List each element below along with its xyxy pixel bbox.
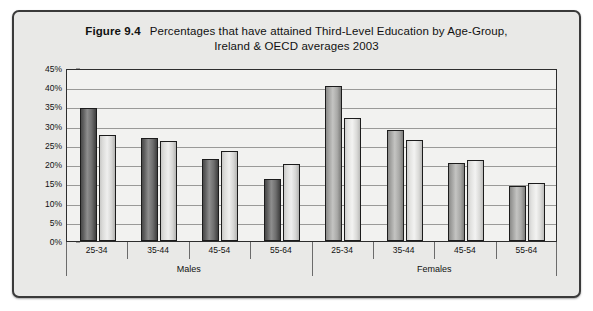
x-tick-label: 55-64: [250, 245, 311, 255]
bar: [344, 118, 361, 241]
bar: [528, 183, 545, 241]
group-label: Females: [312, 264, 558, 274]
bar: [80, 108, 97, 241]
x-tick-label: 25-34: [312, 245, 373, 255]
bar: [325, 86, 342, 241]
bar: [141, 138, 158, 241]
bar: [406, 140, 423, 241]
bar: [283, 164, 300, 241]
category-separator: [496, 242, 497, 259]
chart-area: 0%5%10%15%20%25%30%35%40%45% 25-3435-444…: [14, 64, 581, 296]
figure-panel: Figure 9.4Percentages that have attained…: [12, 10, 581, 298]
bar: [509, 186, 526, 241]
bars-layer: [67, 70, 556, 241]
bar: [467, 160, 484, 242]
bar: [202, 159, 219, 241]
figure-title-line-1: Percentages that have attained Third-Lev…: [150, 25, 508, 37]
y-tick-label: 5%: [28, 218, 62, 228]
x-tick-label: 45-54: [434, 245, 495, 255]
bar: [448, 163, 465, 241]
x-tick-label: 45-54: [189, 245, 250, 255]
figure-title: Figure 9.4Percentages that have attained…: [36, 24, 557, 54]
bar: [221, 151, 238, 241]
bar: [99, 135, 116, 241]
y-tick-label: 10%: [28, 199, 62, 209]
category-separator: [434, 242, 435, 259]
plot-area: [66, 69, 557, 242]
x-tick-label: 55-64: [496, 245, 557, 255]
y-tick-label: 45%: [28, 64, 62, 74]
category-separator: [250, 242, 251, 259]
x-tick-label: 35-44: [127, 245, 188, 255]
y-tick-label: 0%: [28, 237, 62, 247]
y-tick-label: 25%: [28, 141, 62, 151]
bar: [160, 141, 177, 241]
group-label: Males: [66, 264, 312, 274]
y-tick-label: 40%: [28, 83, 62, 93]
category-separator: [127, 242, 128, 259]
x-axis: 25-3435-4445-5455-6425-3435-4445-5455-64…: [66, 242, 557, 296]
bar: [387, 130, 404, 241]
y-tick-label: 15%: [28, 179, 62, 189]
bar: [264, 179, 281, 241]
x-tick-label: 35-44: [373, 245, 434, 255]
y-tick-label: 20%: [28, 160, 62, 170]
y-axis: 0%5%10%15%20%25%30%35%40%45%: [28, 64, 62, 242]
figure-number: Figure 9.4: [85, 25, 140, 37]
category-separator: [189, 242, 190, 259]
figure-title-line-2: Ireland & OECD averages 2003: [36, 39, 557, 54]
category-separator: [373, 242, 374, 259]
y-tick-label: 30%: [28, 122, 62, 132]
y-tick-label: 35%: [28, 102, 62, 112]
x-tick-label: 25-34: [66, 245, 127, 255]
